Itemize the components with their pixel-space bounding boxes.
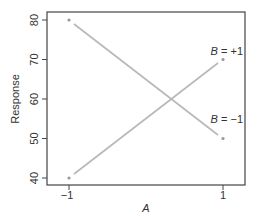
plot-frame [47,12,245,185]
series-label-b-minus-1-rest: = −1 [218,113,243,125]
series-b-minus-1: B = −1 [67,18,243,140]
series-label-b-var: B [211,113,218,125]
y-tick-label-60: 60 [28,93,40,105]
marker-b-minus-1-a-neg1 [67,18,70,21]
y-tick-label-70: 70 [28,53,40,65]
series-label-b-var: B [211,45,218,57]
interaction-plot: 80 70 60 50 40 Response −1 1 A B = −1 B … [0,0,261,217]
x-tick-label-neg1: −1 [61,189,74,201]
y-tick-label-40: 40 [28,172,40,184]
series-label-b-minus-1: B = −1 [211,113,243,125]
y-axis-label: Response [9,74,21,124]
series-label-b-plus-1-rest: = +1 [218,45,243,57]
x-axis: −1 1 A [61,185,226,214]
y-tick-label-50: 50 [28,132,40,144]
y-tick-label-80: 80 [28,14,40,26]
x-axis-label: A [141,202,149,214]
marker-b-plus-1-a-pos1 [221,58,224,61]
x-tick-label-pos1: 1 [220,189,226,201]
series-label-b-plus-1: B = +1 [211,45,243,57]
y-axis: 80 70 60 50 40 Response [9,14,47,184]
marker-b-plus-1-a-neg1 [67,176,70,179]
marker-b-minus-1-a-pos1 [221,137,224,140]
